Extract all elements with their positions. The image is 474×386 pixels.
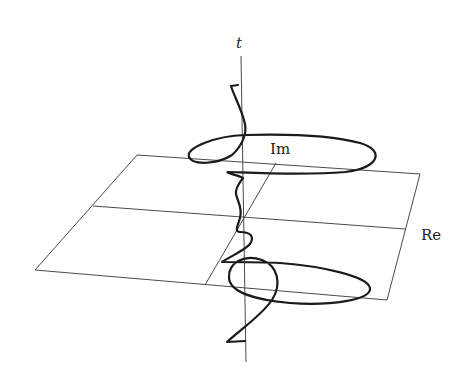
plane-outline [35,155,420,300]
re-axis-label: Re [421,226,441,244]
complex-helix-diagram: t Im Re [0,0,474,386]
im-axis-label: Im [270,140,290,158]
time-axis-line [241,56,246,362]
helix-curve [189,85,376,342]
t-axis-label: t [236,34,243,52]
curve-upper-loop [189,85,376,174]
complex-plane [35,155,420,300]
